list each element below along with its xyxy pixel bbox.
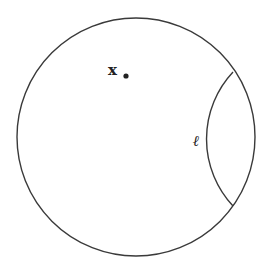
point-x-label: x — [108, 61, 118, 79]
geodesic-line-l — [207, 72, 233, 206]
boundary-circle — [17, 18, 255, 256]
poincare-disk-diagram: x ℓ — [0, 0, 270, 276]
point-x-dot — [123, 73, 128, 78]
line-l-label: ℓ — [193, 132, 199, 150]
